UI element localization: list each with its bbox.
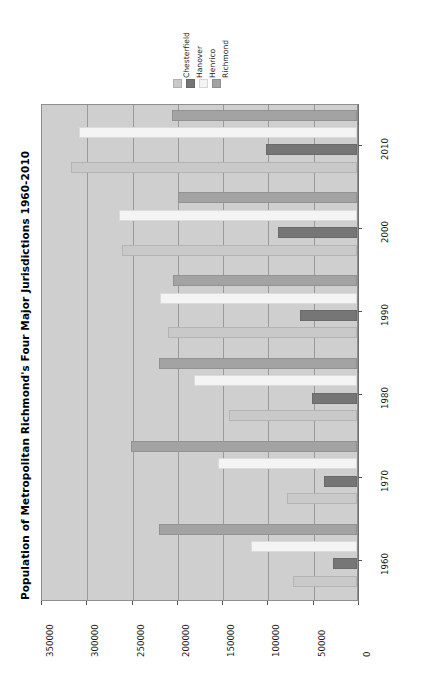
bar-richmond-1970 — [131, 441, 357, 452]
category-tick-mark — [358, 560, 362, 561]
category-tick-mark — [358, 394, 362, 395]
category-axis-line — [358, 104, 359, 602]
value-tick-label: 150000 — [226, 624, 236, 657]
value-tick-mark — [222, 601, 223, 605]
category-tick-label-2000: 2000 — [380, 221, 390, 243]
category-tick-label-1980: 1980 — [380, 387, 390, 409]
category-axis: 196019701980199020002010 — [358, 104, 418, 604]
legend-item-henrico[interactable]: Henrico — [198, 18, 210, 88]
category-tick-label-1960: 1960 — [380, 553, 390, 575]
legend-item-hanover[interactable]: Hanover — [185, 18, 197, 88]
value-tick-mark — [41, 601, 42, 605]
legend-swatch-icon — [186, 79, 195, 88]
value-tick-label: 100000 — [271, 624, 281, 657]
legend-swatch-icon — [212, 79, 221, 88]
value-tick-mark — [313, 601, 314, 605]
bar-hanover-1970 — [324, 476, 358, 487]
value-axis: 3500003000002500002000001500001000005000… — [0, 601, 425, 686]
legend-item-richmond[interactable]: Richmond — [211, 18, 223, 88]
bar-hanover-1990 — [300, 310, 357, 321]
category-tick-mark — [358, 228, 362, 229]
value-tick-label: 300000 — [90, 624, 100, 657]
value-tick-label: 50000 — [317, 630, 327, 657]
bar-hanover-2000 — [278, 227, 357, 238]
bar-richmond-2000 — [178, 192, 357, 203]
bar-henrico-2000 — [119, 210, 357, 221]
category-tick-label-1970: 1970 — [380, 470, 390, 492]
bar-richmond-1980 — [159, 358, 357, 369]
legend-swatch-icon — [199, 79, 208, 88]
gridline — [133, 105, 134, 600]
value-tick-label: 250000 — [136, 624, 146, 657]
bar-henrico-1960 — [251, 541, 357, 552]
bar-hanover-1980 — [312, 393, 357, 404]
legend-item-chesterfield[interactable]: Chesterfield — [172, 18, 184, 88]
bar-hanover-1960 — [333, 558, 357, 569]
bar-chesterfield-2010 — [71, 162, 357, 173]
page-title: Population of Metropolitan Richmond's Fo… — [0, 0, 26, 686]
value-tick-mark — [177, 601, 178, 605]
value-tick-mark — [132, 601, 133, 605]
category-tick-mark — [358, 311, 362, 312]
category-tick-label-2010: 2010 — [380, 139, 390, 161]
gridline — [87, 105, 88, 600]
bar-chesterfield-1970 — [287, 493, 357, 504]
value-tick-mark — [267, 601, 268, 605]
bar-hanover-2010 — [266, 144, 357, 155]
bar-henrico-1970 — [218, 458, 357, 469]
value-tick-mark — [86, 601, 87, 605]
bar-chesterfield-1960 — [293, 576, 357, 587]
chart-title-text: Population of Metropolitan Richmond's Fo… — [19, 151, 31, 600]
plot-area — [41, 104, 358, 601]
bar-richmond-2010 — [172, 110, 357, 121]
category-tick-mark — [358, 145, 362, 146]
bar-henrico-1990 — [160, 293, 357, 304]
category-tick-label-1990: 1990 — [380, 304, 390, 326]
legend-label: Richmond — [221, 40, 230, 78]
category-tick-mark — [358, 477, 362, 478]
bar-henrico-2010 — [79, 127, 357, 138]
value-tick-label: 0 — [362, 652, 372, 657]
bar-henrico-1980 — [194, 375, 357, 386]
bar-chesterfield-1990 — [168, 327, 357, 338]
chart-legend: ChesterfieldHanoverHenricoRichmond — [172, 18, 228, 88]
legend-swatch-icon — [173, 79, 182, 88]
bar-richmond-1990 — [173, 275, 357, 286]
value-tick-label: 350000 — [45, 624, 55, 657]
bar-richmond-1960 — [159, 524, 357, 535]
value-tick-label: 200000 — [181, 624, 191, 657]
bar-chesterfield-2000 — [122, 245, 357, 256]
chart-page: Population of Metropolitan Richmond's Fo… — [0, 0, 425, 686]
bar-chesterfield-1980 — [229, 410, 357, 421]
